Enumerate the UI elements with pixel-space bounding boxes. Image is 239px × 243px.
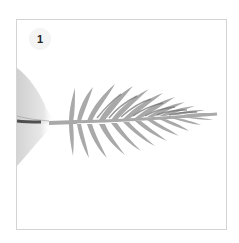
- hand-icon: [17, 68, 55, 166]
- step-image-frame: 1: [16, 19, 227, 230]
- lower-leaflets: [69, 117, 213, 158]
- palm-leaf-illustration: [17, 20, 226, 229]
